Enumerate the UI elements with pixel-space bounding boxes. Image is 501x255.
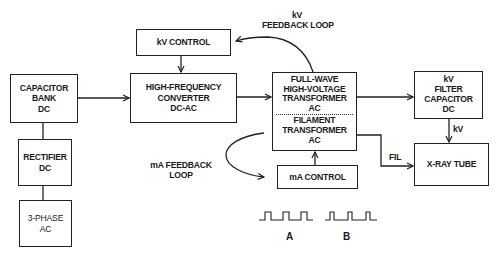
rectifier-label-2: DC [39,163,51,173]
ma-feedback-label-2: LOOP [145,170,217,180]
waveform-a [259,212,313,220]
filter-label-4: DC [442,105,454,115]
arrow-filament-to-tube [357,135,413,166]
three-phase-label-2: AC [40,224,52,234]
connector-lines [0,0,501,255]
filament-transformer-label-3: AC [308,136,320,146]
three-phase-label-1: 3-PHASE [28,213,63,223]
rectifier-block: RECTIFIER DC [18,139,72,186]
kv-link-label: kV [453,124,463,134]
kv-feedback-label: kV FEEDBACK LOOP [262,10,332,31]
hv-transformer-section: FULL-WAVE HIGH-VOLTAGE TRANSFORMER AC [273,73,356,113]
kv-feedback-label-1: kV [262,10,332,20]
kv-feedback-label-2: FEEDBACK LOOP [262,20,332,30]
kv-control-label: kV CONTROL [157,37,210,47]
fil-link-label: FIL [389,152,401,162]
ma-control-block: mA CONTROL [277,165,358,189]
ma-control-label: mA CONTROL [289,172,345,182]
hf-converter-label-1: HIGH-FREQUENCY [146,82,222,92]
xray-tube-block: X-RAY TUBE [414,143,489,186]
ma-feedback-label-1: mA FEEDBACK [145,160,217,170]
hf-converter-label-3: DC-AC [170,103,197,113]
waveform-b [325,212,377,220]
capacitor-bank-label-3: DC [38,104,50,114]
capacitor-bank-label-1: CAPACITOR [20,83,69,93]
kv-control-block: kV CONTROL [136,29,231,56]
filament-transformer-section: FILAMENT TRANSFORMER AC [273,116,356,145]
ma-feedback-label: mA FEEDBACK LOOP [145,160,217,181]
hf-converter-block: HIGH-FREQUENCY CONVERTER DC-AC [130,73,237,123]
ma-feedback-arc [226,133,264,177]
hf-converter-label-2: CONVERTER [157,93,209,103]
waveform-a-label: A [286,232,293,242]
capacitor-bank-block: CAPACITOR BANK DC [10,74,78,123]
kv-feedback-arc [236,37,313,72]
rectifier-label-1: RECTIFIER [23,152,67,162]
xray-generator-block-diagram: CAPACITOR BANK DC RECTIFIER DC 3-PHASE A… [0,0,501,255]
waveform-b-label: B [343,232,350,242]
hv-transformer-label-4: AC [308,104,320,114]
transformer-block: FULL-WAVE HIGH-VOLTAGE TRANSFORMER AC FI… [272,72,357,151]
xray-tube-label: X-RAY TUBE [427,159,477,169]
three-phase-block: 3-PHASE AC [19,200,72,247]
kv-filter-capacitor-block: kV FILTER CAPACITOR DC [414,71,483,119]
capacitor-bank-label-2: BANK [32,93,56,103]
